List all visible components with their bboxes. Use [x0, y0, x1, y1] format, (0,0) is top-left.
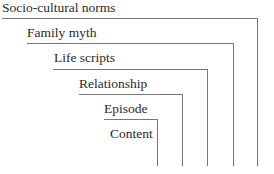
level-border-top-life-scripts — [53, 69, 208, 70]
level-border-top-relationship — [79, 94, 183, 95]
level-border-top-family-myth — [27, 43, 234, 44]
level-label-content: Content — [110, 127, 153, 141]
level-border-top-socio-cultural-norms — [2, 18, 258, 19]
level-label-family-myth: Family myth — [27, 26, 96, 40]
level-border-top-episode — [104, 119, 158, 120]
level-border-right-family-myth — [233, 43, 234, 166]
level-label-life-scripts: Life scripts — [54, 51, 115, 65]
level-label-episode: Episode — [104, 102, 148, 116]
level-border-right-episode — [157, 119, 158, 166]
level-border-right-life-scripts — [207, 69, 208, 166]
level-label-socio-cultural-norms: Socio-cultural norms — [2, 1, 116, 15]
level-border-right-socio-cultural-norms — [257, 18, 258, 166]
level-label-relationship: Relationship — [79, 77, 147, 91]
level-border-right-relationship — [182, 94, 183, 166]
